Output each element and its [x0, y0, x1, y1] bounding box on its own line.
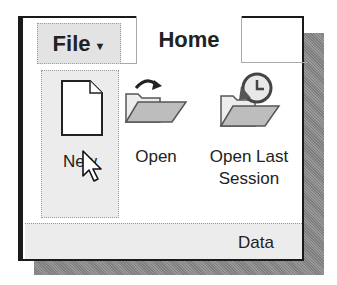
open-last-session-button[interactable]: Open Last Session	[201, 72, 297, 212]
tab-divider	[121, 63, 137, 64]
panel-label-bar: Data	[25, 223, 302, 259]
tab-home-label: Home	[158, 27, 219, 53]
open-button-label: Open	[121, 146, 191, 168]
open-last-session-label-line1: Open Last	[201, 146, 297, 168]
new-button-label: New	[42, 151, 118, 173]
new-button[interactable]: New	[41, 70, 119, 218]
tab-file[interactable]: File ▼	[37, 23, 121, 64]
tab-file-label: File	[53, 31, 91, 57]
open-last-session-icon	[217, 72, 281, 128]
tab-strip-empty	[241, 16, 307, 63]
chevron-down-icon: ▼	[95, 40, 106, 52]
open-folder-icon	[124, 72, 188, 124]
panel-label: Data	[238, 233, 274, 253]
ribbon-frame: File ▼ Home New Open	[18, 16, 304, 261]
open-button[interactable]: Open	[121, 72, 191, 212]
tab-home[interactable]: Home	[136, 16, 242, 63]
new-document-icon	[61, 80, 103, 136]
open-last-session-label-line2: Session	[201, 168, 297, 190]
mouse-cursor-icon	[82, 150, 104, 184]
